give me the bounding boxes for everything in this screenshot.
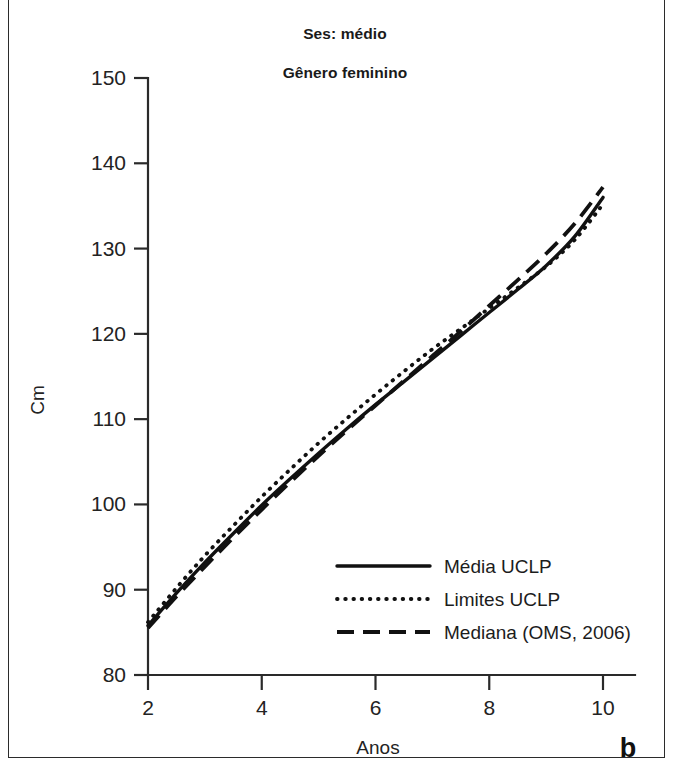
y-axis-title: Cm <box>27 385 48 415</box>
x-tick-label: 2 <box>142 696 154 719</box>
x-axis-ticks: 246810 <box>142 675 615 719</box>
line-chart-plot: 8090100110120130140150 246810 Cm Anos Mé… <box>0 0 676 784</box>
chart-legend: Média UCLPLimites UCLPMediana (OMS, 2006… <box>337 556 631 643</box>
y-tick-label: 110 <box>93 407 126 430</box>
legend-label: Média UCLP <box>444 556 552 577</box>
x-tick-label: 6 <box>370 696 382 719</box>
y-tick-label: 130 <box>91 237 126 260</box>
y-tick-label: 150 <box>91 66 126 89</box>
legend-label: Limites UCLP <box>444 589 560 610</box>
y-tick-label: 80 <box>103 663 126 686</box>
y-axis-ticks: 8090100110120130140150 <box>91 66 148 686</box>
chart-axes <box>148 78 635 675</box>
figure-root: Ses: médio Gênero feminino 8090100110120… <box>0 0 676 784</box>
panel-letter: b <box>620 733 637 763</box>
y-tick-label: 140 <box>91 151 126 174</box>
x-tick-label: 10 <box>591 696 614 719</box>
x-tick-label: 4 <box>256 696 268 719</box>
y-tick-label: 90 <box>103 578 126 601</box>
legend-label: Mediana (OMS, 2006) <box>444 622 631 643</box>
x-tick-label: 8 <box>483 696 495 719</box>
y-tick-label: 100 <box>91 492 126 515</box>
y-tick-label: 120 <box>91 322 126 345</box>
x-axis-title: Anos <box>356 737 399 758</box>
